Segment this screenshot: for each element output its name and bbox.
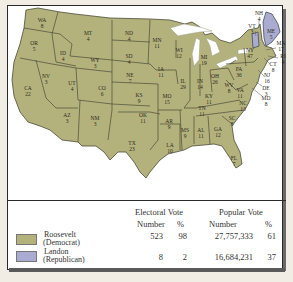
state-label-nh: NH4 (255, 10, 263, 22)
state-label-tn: TN11 (198, 105, 205, 117)
state-label-wi: WI12 (175, 47, 182, 59)
svg-text:23: 23 (129, 146, 135, 152)
svg-text:8: 8 (231, 121, 234, 127)
roosevelt-color-swatch (16, 234, 37, 245)
state-label-ma: MA17 (277, 40, 286, 52)
svg-text:11: 11 (154, 43, 160, 49)
svg-text:47: 47 (247, 53, 253, 59)
svg-text:19: 19 (201, 60, 207, 66)
svg-text:3: 3 (94, 63, 97, 69)
svg-text:6: 6 (101, 91, 104, 97)
state-label-sc: SC8 (229, 115, 236, 127)
svg-text:5: 5 (33, 46, 36, 52)
svg-text:7: 7 (233, 161, 236, 167)
svg-text:16: 16 (264, 78, 270, 84)
svg-text:12: 12 (215, 132, 221, 138)
svg-text:9: 9 (184, 133, 187, 139)
landon-color-swatch (16, 251, 37, 262)
state-label-ct: CT8 (269, 61, 277, 73)
state-label-in: IN14 (197, 78, 203, 90)
state-label-il: IL29 (180, 78, 186, 90)
landon-pv-number: 16,684,231 (203, 252, 253, 262)
roosevelt-party: (Democrat) (43, 239, 80, 247)
header-popular-vote: Popular Vote (219, 207, 263, 217)
landon-pv-percent: 37 (259, 252, 276, 262)
svg-text:11: 11 (158, 72, 164, 78)
landon-ev-number: 8 (127, 252, 163, 262)
svg-text:26: 26 (212, 79, 218, 85)
svg-text:8: 8 (272, 67, 275, 73)
svg-text:5: 5 (270, 34, 273, 40)
svg-text:7: 7 (129, 78, 132, 84)
legend-panel: Electoral Vote Popular Vote Number % Num… (7, 200, 286, 270)
state-label-md: MD8 (262, 95, 271, 107)
state-label-pa: PA36 (236, 66, 243, 78)
svg-text:3: 3 (45, 79, 48, 85)
svg-text:8: 8 (41, 23, 44, 29)
landon-ev-percent: 2 (167, 252, 187, 262)
state-label-nj: NJ16 (264, 72, 271, 84)
header-electoral-vote: Electoral Vote (135, 207, 183, 217)
svg-text:11: 11 (198, 133, 204, 139)
svg-text:3: 3 (94, 121, 97, 127)
svg-text:4: 4 (282, 59, 285, 65)
state-label-ri: RI4 (280, 53, 286, 65)
svg-text:11: 11 (140, 118, 146, 124)
svg-text:4: 4 (71, 86, 74, 92)
landon-party: (Republican) (43, 256, 85, 264)
svg-text:11: 11 (237, 93, 243, 99)
svg-text:4: 4 (258, 16, 261, 22)
state-label-mi: MI19 (201, 54, 208, 66)
svg-text:8: 8 (228, 88, 231, 94)
svg-text:4: 4 (87, 36, 90, 42)
header-pv-number: Number (209, 219, 237, 229)
state-label-ca: CA22 (24, 85, 32, 97)
svg-text:9: 9 (138, 98, 141, 104)
svg-text:17: 17 (278, 46, 284, 52)
svg-text:4: 4 (128, 59, 131, 65)
svg-text:13: 13 (240, 106, 246, 112)
svg-text:3: 3 (66, 118, 69, 124)
state-label-va: VA11 (236, 87, 243, 99)
svg-text:12: 12 (176, 53, 182, 59)
svg-text:11: 11 (199, 111, 205, 117)
svg-text:8: 8 (265, 101, 268, 107)
svg-text:15: 15 (164, 99, 170, 105)
svg-text:14: 14 (197, 84, 203, 90)
state-label-nc: NC13 (239, 100, 247, 112)
header-pv-percent: % (265, 219, 272, 229)
header-ev-percent: % (177, 219, 184, 229)
roosevelt-ev-number: 523 (127, 231, 163, 241)
svg-text:11: 11 (206, 99, 212, 105)
header-ev-number: Number (137, 219, 165, 229)
state-label-tx: TX23 (128, 140, 135, 152)
svg-text:4: 4 (128, 36, 131, 42)
roosevelt-pv-percent: 61 (259, 231, 276, 241)
roosevelt-pv-number: 27,757,333 (203, 231, 253, 241)
roosevelt-ev-percent: 98 (167, 231, 187, 241)
state-label-la: LA10 (166, 142, 173, 154)
svg-text:22: 22 (25, 91, 31, 97)
svg-text:10: 10 (167, 148, 173, 154)
svg-text:36: 36 (236, 72, 242, 78)
svg-text:9: 9 (168, 124, 171, 130)
state-label-ia: IA11 (158, 66, 164, 78)
svg-text:4: 4 (62, 56, 65, 62)
svg-text:29: 29 (180, 84, 186, 90)
svg-text:3: 3 (251, 29, 254, 35)
